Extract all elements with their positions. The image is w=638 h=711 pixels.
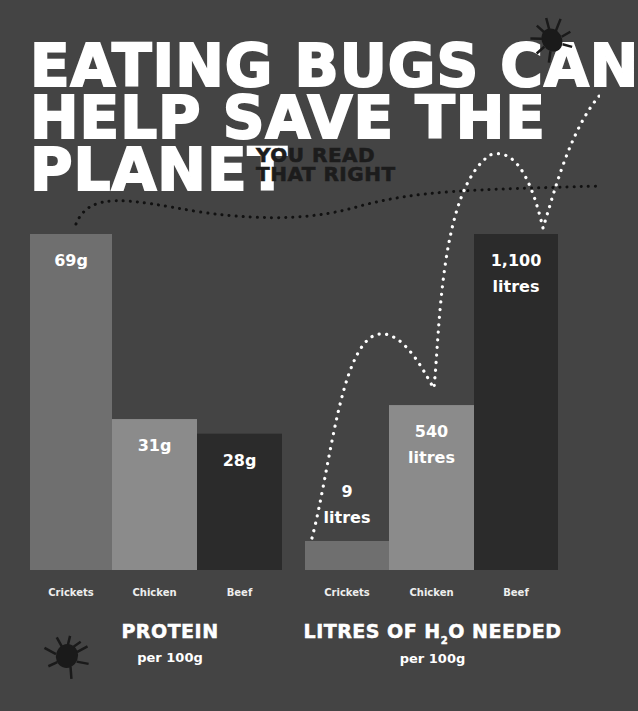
bug-icon-top (524, 11, 579, 66)
water-chart-subtitle: per 100g (290, 651, 575, 666)
category-label-water-crickets: Crickets (324, 587, 370, 598)
data-label-water-chicken-value: 540 (415, 422, 448, 441)
data-label-water-crickets-unit: litres (324, 508, 371, 527)
data-label-protein-chicken: 31g (138, 436, 172, 455)
water-title-part-1: LITRES OF H (304, 620, 441, 642)
data-label-protein-crickets: 69g (54, 251, 88, 270)
category-label-protein-chicken: Chicken (132, 587, 176, 598)
water-chart-title: LITRES OF H2O NEEDED (290, 620, 575, 642)
data-label-water-beef-value: 1,100 (491, 251, 542, 270)
data-label-water-chicken-unit: litres (408, 448, 455, 467)
category-label-water-beef: Beef (503, 587, 529, 598)
water-title-subscript: 2 (441, 635, 448, 646)
protein-chart-subtitle: per 100g (80, 650, 260, 665)
data-label-water-crickets-value: 9 (341, 482, 352, 501)
dotted-flight-path-dark (76, 186, 600, 224)
bar-water-crickets (305, 541, 389, 570)
bar-protein-crickets (30, 234, 112, 570)
category-label-water-chicken: Chicken (409, 587, 453, 598)
protein-chart-title: PROTEIN (80, 620, 260, 642)
data-label-water-beef-unit: litres (493, 277, 540, 296)
water-title-part-2: O NEEDED (448, 620, 561, 642)
data-label-protein-beef: 28g (223, 451, 257, 470)
category-label-protein-crickets: Crickets (48, 587, 94, 598)
category-label-protein-beef: Beef (227, 587, 253, 598)
